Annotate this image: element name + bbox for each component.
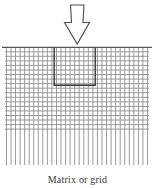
figure-canvas: [0, 0, 155, 188]
figure-caption: Matrix or grid: [0, 174, 155, 186]
matrix-grid-figure: Matrix or grid: [0, 0, 155, 188]
